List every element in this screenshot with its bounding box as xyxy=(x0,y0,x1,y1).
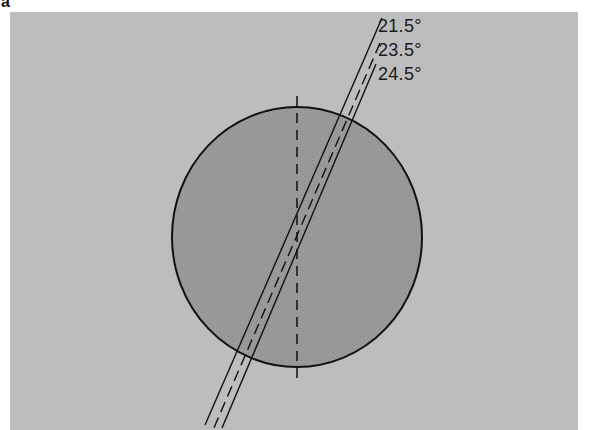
angle-label-21-5: 21.5° xyxy=(378,17,422,35)
angle-label-24-5: 24.5° xyxy=(378,65,422,83)
axial-tilt-diagram xyxy=(0,0,590,430)
angle-label-23-5: 23.5° xyxy=(378,41,422,59)
